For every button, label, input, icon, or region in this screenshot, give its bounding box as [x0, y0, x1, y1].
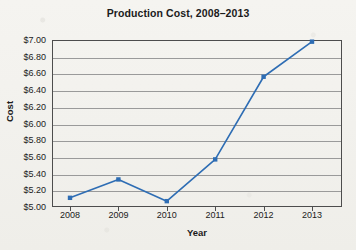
data-point-marker [68, 196, 72, 200]
y-axis-tick-label: $5.80 [23, 135, 46, 145]
y-axis-tick-label: $6.40 [23, 85, 46, 95]
x-axis-tick-label: 2009 [108, 210, 128, 220]
y-axis-tick-label: $6.60 [23, 68, 46, 78]
x-axis-tick-label-group: 200820092010201120122013 [52, 210, 342, 224]
line-chart-figure: Production Cost, 2008–2013 Cost $5.00$5.… [0, 0, 356, 250]
x-axis-tick-mark [167, 207, 168, 211]
y-axis-tick-label: $6.00 [23, 119, 46, 129]
y-axis-tick-label: $6.20 [23, 102, 46, 112]
x-axis-tick-label: 2011 [206, 210, 225, 220]
x-axis-title: Year [52, 227, 342, 238]
chart-title: Production Cost, 2008–2013 [0, 7, 356, 19]
data-series-layer [52, 40, 342, 207]
y-axis-tick-label-group: $5.00$5.20$5.40$5.60$5.80$6.00$6.20$6.40… [0, 40, 49, 207]
x-axis-tick-label: 2010 [157, 210, 177, 220]
x-axis-tick-label: 2008 [60, 210, 80, 220]
x-axis-tick-label: 2012 [254, 210, 274, 220]
x-axis-tick-mark [312, 207, 313, 211]
y-axis-tick-label: $6.80 [23, 52, 46, 62]
data-point-marker [310, 39, 314, 43]
series-line [70, 42, 312, 201]
y-axis-tick-label: $7.00 [23, 35, 46, 45]
x-axis-tick-mark [70, 207, 71, 211]
y-axis-tick-label: $5.60 [23, 152, 46, 162]
data-point-marker [213, 157, 217, 161]
y-axis-tick-label: $5.00 [23, 202, 46, 212]
x-axis-tick-mark [118, 207, 119, 211]
y-axis-tick-label: $5.40 [23, 169, 46, 179]
y-axis-tick-label: $5.20 [23, 185, 46, 195]
x-axis-tick-mark [264, 207, 265, 211]
data-point-marker [116, 177, 120, 181]
data-point-marker [261, 75, 265, 79]
x-axis-tick-label: 2013 [302, 210, 322, 220]
x-axis-tick-mark [215, 207, 216, 211]
data-point-marker [165, 199, 169, 203]
